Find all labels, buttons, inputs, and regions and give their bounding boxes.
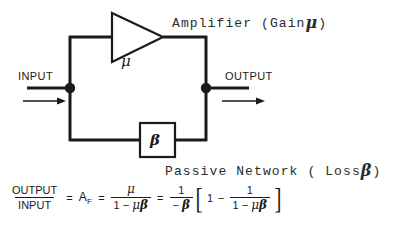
frac2-den-beta: β: [182, 198, 190, 212]
bracket-close: ]: [275, 186, 282, 210]
frac1-numerator: μ: [124, 183, 138, 197]
frac1-den-one: 1: [114, 199, 120, 211]
frac1-den-minus: −: [123, 199, 129, 211]
frac3-den-mu: μ: [251, 198, 259, 212]
feedback-beta-symbol: β: [150, 131, 160, 149]
frac1-denominator: 1 − μβ: [111, 197, 151, 212]
equation-lhs-denominator: INPUT: [15, 197, 54, 211]
bracket-contents: 1 − 1 1 − μβ: [207, 184, 270, 213]
amplifier-annotation-mu: μ: [306, 13, 319, 32]
output-node-dot: [201, 83, 211, 93]
af-base: A: [79, 190, 87, 204]
output-port-label: OUTPUT: [225, 70, 273, 82]
input-direction-arrow: [23, 98, 66, 105]
gain-equation: OUTPUT INPUT = AF = μ 1 − μβ = 1 − β [ 1…: [9, 183, 284, 213]
mu-over-one-minus-mu-beta-fraction: μ 1 − μβ: [111, 183, 151, 213]
input-port-label: INPUT: [18, 70, 53, 82]
af-term: AF: [79, 190, 93, 206]
bracket-one: 1: [207, 192, 213, 204]
frac1-den-mu: μ: [132, 198, 140, 212]
amplifier-annotation: Amplifier (Gainμ): [172, 12, 327, 31]
passive-network-annotation-text: Passive Network ( Loss: [165, 164, 361, 179]
feedback-amplifier-diagram: μ β INPUT OUTPUT Amplifier (Gainμ) Passi…: [0, 0, 414, 232]
frac1-den-beta: β: [140, 198, 148, 212]
amplifier-gain-symbol: μ: [121, 52, 131, 70]
equals-sign-2: =: [98, 192, 104, 204]
passive-network-annotation-close: ): [373, 164, 382, 179]
one-over-one-minus-mu-beta-fraction: 1 1 − μβ: [230, 184, 270, 213]
passive-network-annotation: Passive Network ( Lossβ): [165, 160, 381, 179]
amplifier-triangle: [112, 13, 163, 62]
frac3-den-beta: β: [259, 198, 267, 212]
equals-sign-3: =: [157, 192, 163, 204]
af-subscript: F: [87, 197, 92, 206]
frac2-denominator: − β: [170, 197, 193, 212]
input-node-dot: [65, 83, 75, 93]
output-direction-arrow: [222, 98, 265, 105]
equals-sign-1: =: [66, 192, 72, 204]
one-over-minus-beta-fraction: 1 − β: [170, 184, 193, 213]
frac3-den-one: 1: [233, 199, 239, 211]
passive-network-annotation-beta: β: [361, 161, 373, 180]
frac3-denominator: 1 − μβ: [230, 197, 270, 212]
frac2-numerator: 1: [175, 184, 187, 197]
frac3-numerator: 1: [244, 184, 256, 197]
frac3-den-minus: −: [242, 199, 248, 211]
bracket-open: [: [195, 186, 202, 210]
output-over-input-fraction: OUTPUT INPUT: [9, 184, 60, 212]
bracket-minus: −: [218, 192, 224, 204]
frac2-den-minus: −: [173, 199, 179, 211]
equation-lhs-numerator: OUTPUT: [9, 184, 60, 197]
amplifier-annotation-text: Amplifier (Gain: [172, 16, 306, 31]
amplifier-annotation-close: ): [318, 16, 327, 31]
